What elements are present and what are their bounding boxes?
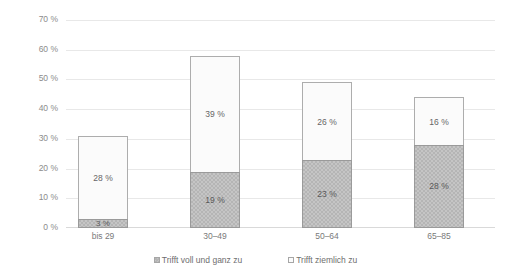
legend-item-label: Trifft voll und ganz zu [162,255,242,265]
y-axis-tick-label: 20 % [39,163,58,173]
bar-segment-trifft-voll-und-ganz-zu[interactable]: 23 % [302,160,352,228]
x-axis-label-65-85: 65–85 [394,231,484,241]
chart-legend: Trifft voll und ganz zu Trifft ziemlich … [0,255,511,265]
y-axis-tick-label: 60 % [39,44,58,54]
bar-segment-value: 23 % [317,189,336,199]
legend-swatch-icon [288,257,294,263]
bar-segment-value: 28 % [429,181,448,191]
legend-item-label: Trifft ziemlich zu [296,255,357,265]
y-axis-tick-label: 30 % [39,133,58,143]
bar-group-30-49[interactable]: 39 % 19 % [190,56,240,228]
x-axis-label-bis-29: bis 29 [58,231,148,241]
bar-segment-trifft-voll-und-ganz-zu[interactable]: 28 % [414,145,464,228]
bar-segment-value: 16 % [429,117,448,127]
bar-segment-value: 26 % [317,117,336,127]
gridline-60 [66,50,495,51]
gridline-70 [66,20,495,21]
gridline-50 [66,79,495,80]
x-axis-label-30-49: 30–49 [170,231,260,241]
y-axis-tick-label: 10 % [39,192,58,202]
legend-swatch-icon [154,257,160,263]
x-axis-label-50-64: 50–64 [282,231,372,241]
bar-segment-trifft-ziemlich-zu[interactable]: 26 % [302,82,352,159]
bar-segment-trifft-ziemlich-zu[interactable]: 16 % [414,97,464,145]
bar-segment-trifft-ziemlich-zu[interactable]: 39 % [190,56,240,172]
y-axis-tick-label: 40 % [39,103,58,113]
bar-group-50-64[interactable]: 26 % 23 % [302,82,352,228]
bar-group-65-85[interactable]: 16 % 28 % [414,97,464,228]
bar-segment-value: 3 % [96,219,110,228]
y-axis-tick-label: 50 % [39,73,58,83]
plot-area: 28 % 3 % 39 % 19 % 26 % 23 % [66,20,495,228]
y-axis-tick-label: 70 % [39,14,58,24]
bar-segment-value: 39 % [205,109,224,119]
legend-item-trifft-ziemlich-zu[interactable]: Trifft ziemlich zu [288,255,357,265]
stacked-bar-chart: 70 % 60 % 50 % 40 % 30 % 20 % 10 % 0 % 2… [0,0,511,275]
bar-segment-value: 28 % [93,173,112,183]
bar-segment-trifft-voll-und-ganz-zu[interactable]: 19 % [190,172,240,228]
bar-segment-trifft-voll-und-ganz-zu[interactable]: 3 % [78,219,128,228]
y-axis-tick-label: 0 % [43,222,58,232]
bar-segment-trifft-ziemlich-zu[interactable]: 28 % [78,136,128,219]
bar-group-bis-29[interactable]: 28 % 3 % [78,136,128,228]
legend-item-trifft-voll-und-ganz-zu[interactable]: Trifft voll und ganz zu [154,255,242,265]
bar-segment-value: 19 % [205,195,224,205]
